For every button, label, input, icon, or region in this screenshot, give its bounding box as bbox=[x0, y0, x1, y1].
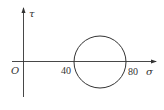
sigma-axis-label: σ bbox=[146, 66, 154, 77]
origin-label: O bbox=[11, 65, 19, 76]
mohr-circle bbox=[74, 36, 126, 88]
tick-label-40: 40 bbox=[61, 65, 71, 76]
mohr-circle-diagram: τ O 40 80 σ bbox=[0, 0, 164, 110]
tau-axis-label: τ bbox=[29, 8, 35, 19]
tick-label-80: 80 bbox=[128, 66, 138, 77]
